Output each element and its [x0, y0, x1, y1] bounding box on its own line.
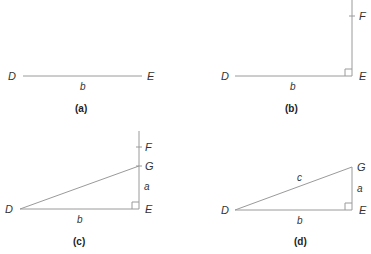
segment-c-label: c	[297, 172, 302, 183]
right-angle-marker	[345, 203, 352, 210]
point-f-label: F	[145, 141, 153, 153]
segment-dg	[20, 166, 139, 209]
right-angle-marker	[345, 69, 352, 76]
point-d-label: D	[8, 70, 16, 82]
panel-a: D E b (a)	[8, 70, 155, 114]
construction-diagram: D E b (a) D E F b (b) D E F G a b (c)	[0, 0, 371, 254]
panel-b-caption: (b)	[285, 103, 298, 114]
segment-a-label: a	[144, 181, 150, 192]
point-d-label: D	[221, 70, 229, 82]
point-d-label: D	[5, 203, 13, 215]
panel-c: D E F G a b (c)	[5, 131, 154, 247]
segment-a-label: a	[357, 183, 363, 194]
point-e-label: E	[359, 204, 367, 216]
panel-d: D E G c a b (d)	[221, 161, 367, 247]
panel-b: D E F b (b)	[221, 0, 367, 114]
point-e-label: E	[359, 70, 367, 82]
panel-c-caption: (c)	[73, 236, 85, 247]
panel-a-caption: (a)	[75, 103, 87, 114]
point-d-label: D	[221, 204, 229, 216]
point-g-label: G	[357, 161, 366, 173]
segment-dg	[235, 167, 352, 210]
segment-b-label: b	[297, 215, 303, 226]
point-f-label: F	[359, 10, 367, 22]
point-e-label: E	[145, 203, 153, 215]
right-angle-marker	[132, 202, 139, 209]
panel-d-caption: (d)	[294, 236, 307, 247]
segment-b-label: b	[290, 81, 296, 92]
segment-b-label: b	[77, 214, 83, 225]
segment-b-label: b	[80, 81, 86, 92]
point-e-label: E	[147, 70, 155, 82]
point-g-label: G	[145, 160, 154, 172]
